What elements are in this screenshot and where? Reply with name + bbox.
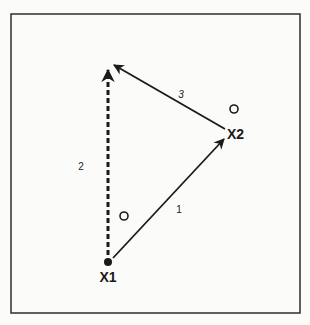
open-circle-marker — [120, 212, 128, 220]
point-x2-label: X2 — [227, 126, 244, 142]
point-x1-dot — [104, 258, 112, 266]
vector-2-label: 2 — [78, 161, 84, 172]
vector-1-arrow — [113, 139, 224, 258]
vector-3-arrow — [114, 65, 225, 129]
vector-1-label: 1 — [176, 204, 182, 215]
vector-3-label: 3 — [178, 89, 184, 100]
point-x1-label: X1 — [99, 269, 116, 285]
vector-diagram: X1 X2 1 2 3 — [0, 0, 310, 325]
diagram-frame — [11, 14, 300, 313]
open-circle-marker — [230, 105, 238, 113]
